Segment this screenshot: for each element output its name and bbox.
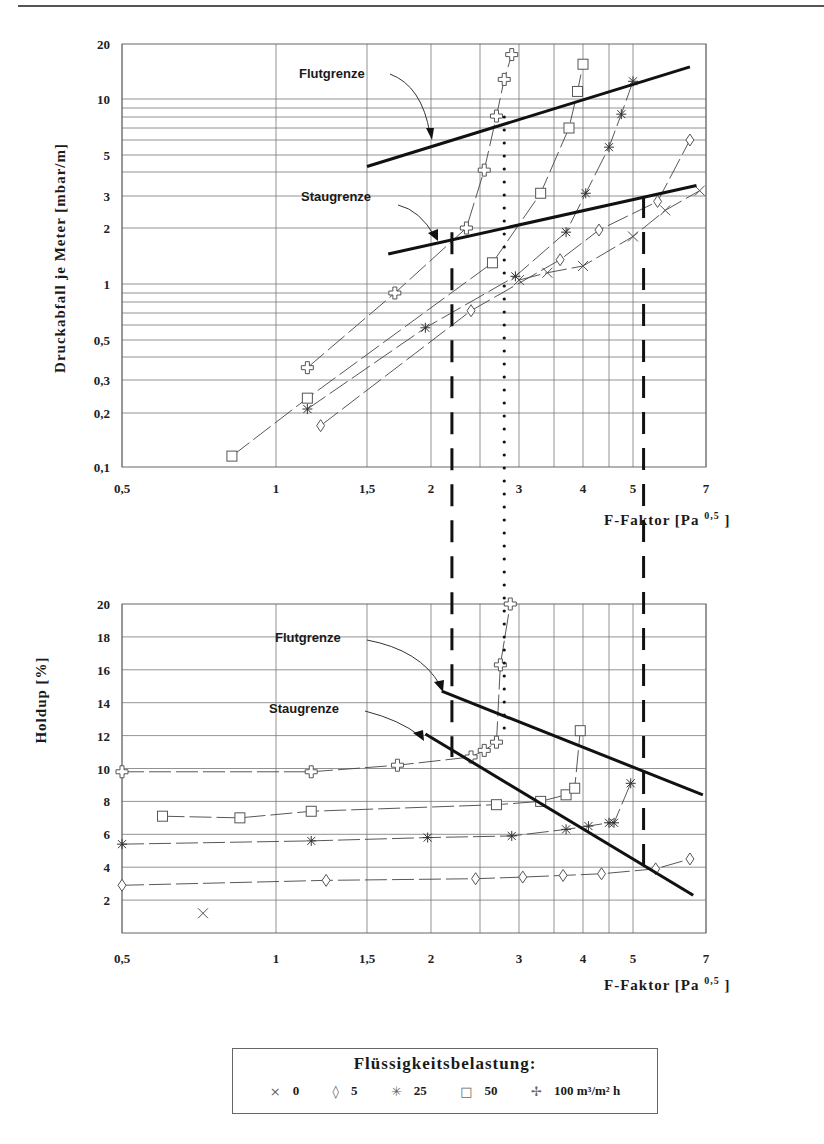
legend-label: 100 m³/m² h [554,1083,620,1099]
boundary-line-staugrenze [425,734,693,895]
y-tick-label: 20 [97,597,110,612]
y-tick-label: 8 [104,794,111,809]
y-axis-label: Druckabfall je Meter [mbar/m] [52,143,68,373]
x-tick-label: 0,5 [114,951,131,966]
boundary-line-flutgrenze [442,691,703,795]
y-tick-label: 18 [97,630,111,645]
square-marker-icon: □ [460,1084,472,1099]
legend-label: 0 [293,1083,300,1099]
charts-canvas: 0,10,20,30,5123510200,511,523457F-Faktor… [0,0,824,1144]
y-tick-label: 1 [104,277,111,292]
y-tick-label: 6 [104,827,111,842]
plus-marker-icon: ✢ [531,1084,542,1099]
series-curve [122,783,631,844]
series-curve [307,55,511,368]
annotation-flutgrenze: Flutgrenze [275,630,341,645]
legend-item-25: ✳ 25 [391,1083,427,1099]
x-tick-label: 7 [703,951,710,966]
y-tick-label: 10 [97,92,110,107]
legend-label: 25 [414,1083,427,1099]
y-tick-label: 3 [104,189,111,204]
x-tick-label: 3 [516,481,523,496]
pressure-drop-chart: 0,10,20,30,5123510200,511,523457F-Faktor… [52,37,730,528]
y-tick-label: 2 [104,893,111,908]
x-tick-label: 4 [580,951,587,966]
y-tick-label: 0,2 [94,406,110,421]
legend-item-100: ✢ 100 m³/m² h [531,1083,620,1099]
y-tick-label: 4 [104,860,111,875]
legend-label: 50 [485,1083,498,1099]
holdup-chart: 24681012141618200,511,523457F-Faktor [Pa… [33,597,730,993]
x-tick-label: 5 [630,951,637,966]
x-tick-label: 2 [428,481,435,496]
y-axis-label: Holdup [%] [33,656,49,743]
annotation-flutgrenze: Flutgrenze [299,66,365,81]
x-tick-label: 1,5 [359,951,376,966]
x-tick-label: 1 [273,951,280,966]
legend-label: 5 [351,1083,358,1099]
asterisk-marker-icon: ✳ [391,1084,402,1099]
x-tick-label: 1 [273,481,280,496]
x-tick-label: 4 [580,481,587,496]
y-tick-label: 0,3 [94,373,111,388]
x-tick-label: 1,5 [359,481,376,496]
diamond-marker-icon: ◊ [333,1084,339,1099]
y-tick-label: 10 [97,762,110,777]
legend: Flüssigkeitsbelastung: × 0 ◊ 5 ✳ 25 □ 50… [232,1048,658,1114]
y-tick-label: 12 [97,729,110,744]
x-tick-label: 0,5 [114,481,131,496]
y-tick-label: 20 [97,37,110,52]
x-tick-label: 3 [516,951,523,966]
legend-item-0: × 0 [270,1083,299,1099]
x-marker-icon: × [270,1084,281,1099]
annotation-staugrenze: Staugrenze [269,701,339,716]
y-tick-label: 14 [97,696,111,711]
x-tick-label: 5 [630,481,637,496]
legend-item-5: ◊ 5 [333,1083,358,1099]
x-tick-label: 7 [703,481,710,496]
series-curve [232,64,583,456]
legend-title: Flüssigkeitsbelastung: [233,1054,657,1074]
y-tick-label: 0,1 [94,460,110,475]
series-curve [163,731,581,818]
y-tick-label: 0,5 [94,333,111,348]
legend-item-50: □ 50 [460,1083,497,1099]
y-tick-label: 16 [97,663,111,678]
legend-items: × 0 ◊ 5 ✳ 25 □ 50 ✢ 100 m³/m² h [233,1083,657,1099]
annotation-staugrenze: Staugrenze [301,189,371,204]
x-axis-label: F-Faktor [Pa 0,5 ] [604,975,730,993]
x-axis-label: F-Faktor [Pa 0,5 ] [604,510,730,528]
y-tick-label: 5 [104,148,111,163]
x-tick-label: 2 [428,951,435,966]
series-curve [307,81,633,409]
y-tick-label: 2 [104,221,111,236]
